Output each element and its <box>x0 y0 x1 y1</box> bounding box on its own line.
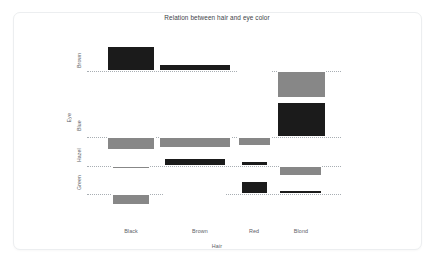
y-tick-brown: Brown <box>76 49 82 71</box>
bar-hazel-brown <box>164 158 226 166</box>
bar-blue-black <box>107 137 155 150</box>
bar-blue-blond <box>277 102 326 137</box>
bar-green-blond <box>279 190 322 194</box>
x-axis-title: Hair <box>0 243 434 249</box>
x-tick-brown: Brown <box>170 228 230 234</box>
y-axis-title: Eye <box>66 113 72 123</box>
bar-brown-black <box>107 46 155 71</box>
x-tick-black: Black <box>101 228 161 234</box>
bar-green-black <box>112 194 150 205</box>
bar-hazel-red <box>241 161 268 166</box>
bar-brown-blond <box>277 71 326 98</box>
bar-green-red <box>241 181 268 194</box>
bar-blue-red <box>238 137 271 146</box>
y-tick-hazel: Hazel <box>76 144 82 166</box>
bar-brown-brown <box>159 64 231 71</box>
bar-brown-red <box>238 70 271 72</box>
x-tick-blond: Blond <box>271 228 331 234</box>
y-tick-green: Green <box>76 172 82 194</box>
plot-area <box>87 30 341 212</box>
page-title: Relation between hair and eye color <box>0 14 434 21</box>
y-tick-blue: Blue <box>76 115 82 137</box>
bar-hazel-blond <box>279 166 322 176</box>
bar-green-brown <box>164 194 226 196</box>
bar-blue-brown <box>159 137 231 148</box>
bar-hazel-black <box>112 166 150 169</box>
